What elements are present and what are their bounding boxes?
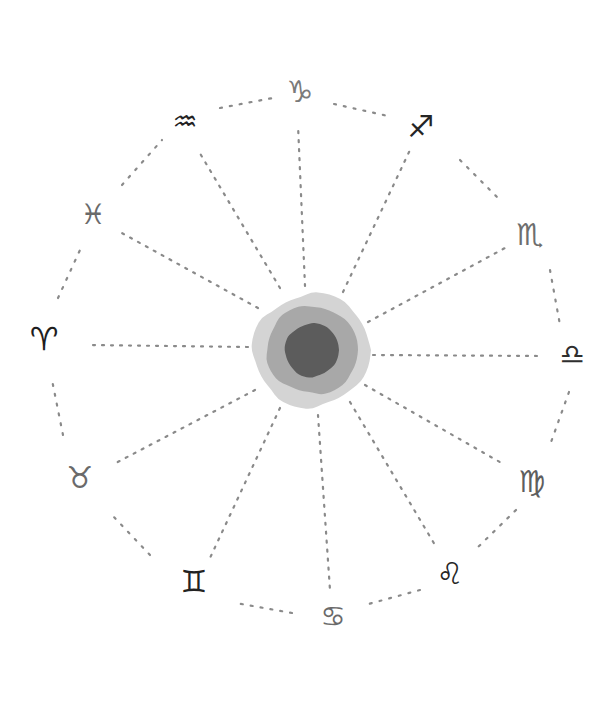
rim-segment-capricorn-sagittarius [334, 104, 388, 116]
rim-segment-aquarius-capricorn [220, 97, 278, 108]
center-watercolor-blob [252, 292, 371, 408]
sagittarius-icon: ♐︎ [408, 112, 435, 142]
leo-icon: ♌︎ [437, 559, 464, 589]
rim-segment-virgo-leo [475, 510, 516, 550]
rim-segment-sagittarius-scorpio [460, 160, 500, 200]
spoke-gemini [210, 408, 280, 558]
spoke-leo [350, 402, 435, 545]
gemini-icon: ♊︎ [181, 567, 208, 597]
rim-segment-leo-cancer [365, 590, 420, 605]
spoke-taurus [112, 390, 255, 465]
aquarius-icon: ♒︎ [172, 108, 197, 136]
spoke-virgo [365, 385, 505, 465]
virgo-icon: ♍︎ [519, 467, 546, 497]
taurus-icon: ♉︎ [67, 463, 94, 493]
capricorn-icon: ♑︎ [287, 77, 314, 107]
spoke-cancer [318, 415, 330, 590]
scorpio-icon: ♏︎ [517, 220, 544, 250]
rim-segment-aries-pisces [58, 250, 80, 298]
spoke-libra [373, 355, 540, 356]
spoke-pisces [120, 232, 258, 308]
spoke-aries [88, 345, 248, 347]
spoke-capricorn [298, 125, 305, 286]
rim-segment-taurus-aries [52, 380, 63, 435]
spoke-scorpio [368, 248, 505, 322]
rim-segment-pisces-aquarius [122, 140, 162, 185]
spoke-aquarius [198, 150, 280, 288]
pisces-icon: ♓︎ [80, 201, 105, 229]
spoke-sagittarius [343, 150, 410, 292]
rim-segment-cancer-gemini [236, 603, 292, 613]
rim-segment-gemini-taurus [112, 515, 150, 555]
rim-segment-scorpio-libra [550, 270, 560, 325]
cancer-icon: ♋︎ [320, 603, 345, 631]
libra-icon: ♎︎ [559, 341, 584, 369]
rim-segment-libra-virgo [550, 392, 569, 445]
aries-icon: ♈︎ [30, 323, 59, 355]
